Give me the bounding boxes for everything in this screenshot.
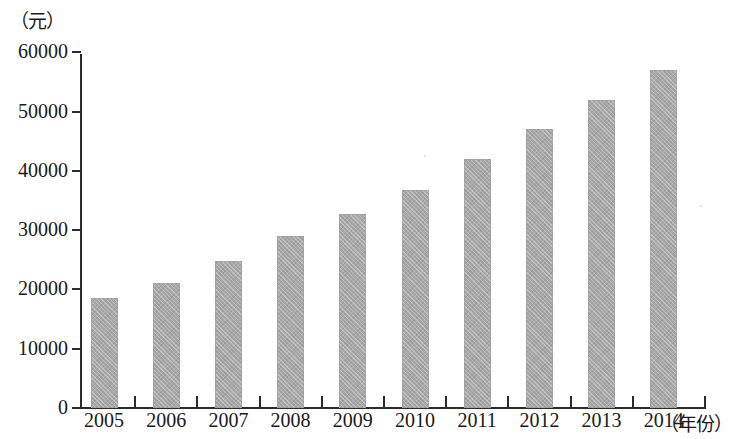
scan-speck [424,155,426,157]
y-axis-tick [72,51,81,53]
y-axis-line [80,54,82,409]
y-axis-tick-label-text: 20000 [0,278,68,298]
bar [402,190,429,408]
y-axis-tick-label-text: 40000 [0,160,68,180]
y-axis-tick-label: 50000 [0,101,68,121]
y-axis-tick-label: 60000 [0,41,68,61]
bar [464,159,491,408]
y-axis-tick-label: 0 [0,397,68,417]
x-axis-tick-label: 2013 [582,410,622,430]
x-axis-tick-label: 2012 [519,410,559,430]
x-axis-tick-label: 2010 [395,410,435,430]
x-axis-tick [321,396,323,408]
x-axis-tick-label: 2007 [208,410,248,430]
x-axis-tick-label: 2009 [333,410,373,430]
y-axis-tick [72,229,81,231]
y-axis-tick-label-text: 60000 [0,41,68,61]
y-axis-tick-label-text: 0 [0,397,68,417]
x-axis-tick-label: 2008 [271,410,311,430]
y-axis-tick-label: 40000 [0,160,68,180]
y-axis-tick [72,111,81,113]
x-axis-unit-label: （年份） [660,409,732,436]
y-axis-tick [72,407,81,409]
x-axis-tick [383,396,385,408]
x-axis-tick-label: 2006 [146,410,186,430]
y-axis-tick-label-text: 50000 [0,101,68,121]
x-axis-tick-label: 2005 [84,410,124,430]
y-axis-tick-label: 30000 [0,219,68,239]
y-axis-tick-label-text: 10000 [0,338,68,358]
bar [277,236,304,408]
bar [91,298,118,408]
y-axis-tick [72,348,81,350]
y-axis-tick [72,170,81,172]
y-axis-tick-label-text: 30000 [0,219,68,239]
bar [153,283,180,408]
x-axis-tick [259,396,261,408]
y-axis-tick [72,288,81,290]
x-axis-tick [507,396,509,408]
bar [339,214,366,408]
y-axis-tick-label: 20000 [0,278,68,298]
x-axis-tick [134,396,136,408]
x-axis-end-tick [704,396,706,409]
scan-speck [700,205,702,207]
y-axis-unit-label: （元） [10,6,64,33]
x-axis-tick [570,396,572,408]
x-axis-tick-label: 2011 [458,410,497,430]
bar-chart: （元） 0100002000030000400005000060000 2005… [0,0,740,439]
bar [526,129,553,408]
bar [650,70,677,408]
x-axis-tick [632,396,634,408]
bar [215,261,242,408]
bar [588,100,615,408]
y-axis-tick-label: 10000 [0,338,68,358]
x-axis-tick [445,396,447,408]
x-axis-tick [196,396,198,408]
